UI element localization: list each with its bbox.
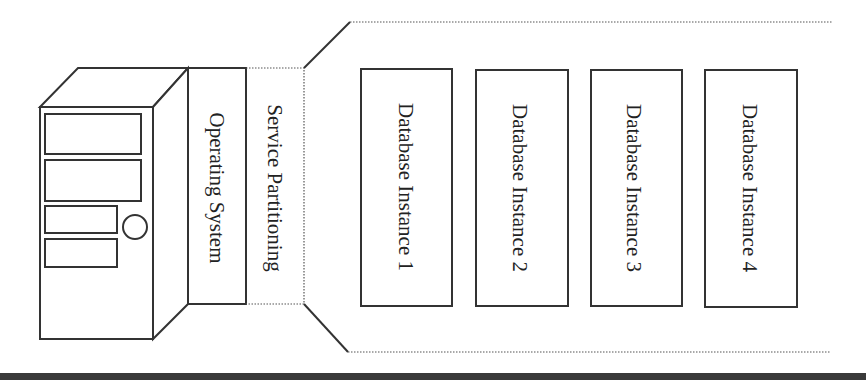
- bracket-top-diagonal: [304, 22, 350, 68]
- power-button-icon: [123, 215, 147, 239]
- instance-label: Database Instance 4: [738, 104, 762, 272]
- instance-label: Database Instance 2: [508, 104, 532, 272]
- layer-operating-system: Operating System: [188, 68, 246, 304]
- architecture-diagram: Operating System Service Partitioning Da…: [0, 0, 868, 385]
- server-side-face: [153, 68, 188, 339]
- service-partitioning-label: Service Partitioning: [263, 104, 287, 272]
- instance-label: Database Instance 1: [394, 103, 418, 271]
- database-instance-1: Database Instance 1: [361, 69, 452, 306]
- layer-service-partitioning: Service Partitioning: [246, 68, 304, 304]
- server-bay-4: [45, 239, 117, 267]
- database-instance-4: Database Instance 4: [705, 70, 797, 307]
- bracket-bottom-diagonal: [304, 304, 348, 352]
- server-tower-icon: [40, 68, 188, 339]
- baseline-divider: [0, 373, 866, 380]
- instance-label: Database Instance 3: [622, 104, 646, 272]
- database-instance-3: Database Instance 3: [591, 70, 682, 306]
- database-instance-2: Database Instance 2: [476, 70, 568, 306]
- server-bay-3: [45, 206, 117, 233]
- server-bay-1: [45, 114, 141, 154]
- os-label: Operating System: [205, 112, 229, 263]
- server-bay-2: [45, 160, 141, 201]
